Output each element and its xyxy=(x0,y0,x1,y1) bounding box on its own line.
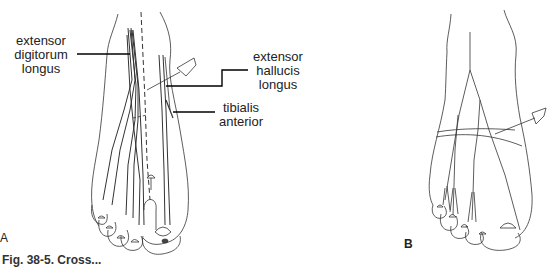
panel-label-a: A xyxy=(0,231,8,245)
dashed-line-a xyxy=(141,12,150,200)
figure-caption: Fig. 38-5. Cross... xyxy=(2,253,101,267)
foot-b-outline xyxy=(429,10,532,238)
foot-a-outline xyxy=(92,12,189,244)
panel-label-b: B xyxy=(404,237,413,251)
label-tibialis-anterior: tibialis anterior xyxy=(216,101,266,129)
label-extensor-digitorum-longus: extensor digitorum longus xyxy=(8,34,74,76)
label-extensor-hallucis-longus: extensor hallucis longus xyxy=(250,50,306,92)
